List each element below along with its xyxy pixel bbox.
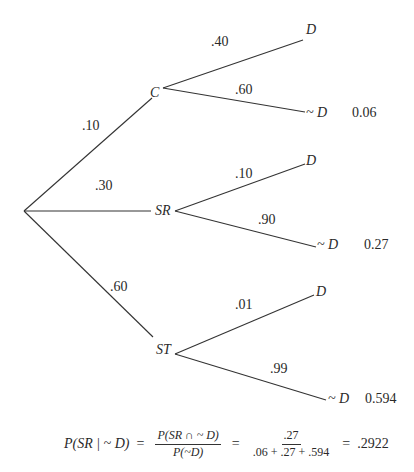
tree-lines [0, 0, 414, 472]
edge-prob-sr-d: .10 [235, 167, 253, 181]
edge-prob-c: .10 [82, 119, 100, 133]
node-sr: SR [155, 204, 171, 218]
formula-equals-1: = [136, 436, 144, 452]
fraction-2-denominator: .06 + .27 + .594 [251, 445, 332, 459]
formula-equals-2: = [232, 436, 240, 452]
edge-root-st [24, 211, 153, 337]
leaf-st-notd: ~ D [328, 392, 349, 406]
edge-prob-sr-notd: .90 [258, 213, 276, 227]
formula-equals-3: = [342, 436, 350, 452]
node-st: ST [156, 343, 171, 357]
fraction-2-numerator: .27 [282, 429, 301, 444]
leaf-st-d: D [316, 285, 326, 299]
node-c: C [150, 86, 159, 100]
edge-prob-sr: .30 [95, 179, 113, 193]
joint-prob-c-notd: 0.06 [352, 106, 377, 120]
formula-result: .2922 [357, 436, 389, 452]
joint-prob-st-notd: 0.594 [365, 392, 397, 406]
fraction-1-numerator: P(SR ∩ ~ D) [155, 429, 220, 444]
formula-fraction-1: P(SR ∩ ~ D) P(~D) [155, 429, 220, 458]
leaf-c-d: D [306, 23, 316, 37]
formula-fraction-2: .27 .06 + .27 + .594 [251, 429, 332, 458]
edge-prob-st-d: .01 [235, 298, 253, 312]
edge-c-notd [163, 88, 305, 112]
bayes-formula: P(SR | ~ D) = P(SR ∩ ~ D) P(~D) = .27 .0… [64, 424, 384, 464]
edge-prob-st: .60 [110, 280, 128, 294]
fraction-1-denominator: P(~D) [171, 445, 205, 459]
leaf-sr-notd: ~ D [317, 238, 338, 252]
edge-c-d [163, 40, 303, 88]
edge-sr-notd [175, 211, 316, 247]
edge-st-notd [175, 354, 326, 400]
edge-prob-c-notd: .60 [235, 83, 253, 97]
edge-root-c [24, 98, 152, 211]
joint-prob-sr-notd: 0.27 [364, 238, 389, 252]
edge-prob-c-d: .40 [211, 35, 229, 49]
edge-prob-st-notd: .99 [270, 362, 288, 376]
formula-lhs: P(SR | ~ D) [64, 436, 129, 452]
leaf-c-notd: ~ D [306, 106, 327, 120]
leaf-sr-d: D [306, 154, 316, 168]
